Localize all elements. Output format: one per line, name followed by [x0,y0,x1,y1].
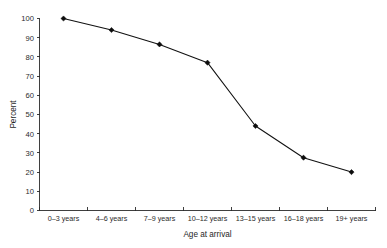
data-point-markers [61,16,354,175]
x-tick-label: 16–18 years [284,214,324,223]
y-tick-label: 60 [26,91,34,100]
y-tick-label: 0 [30,206,34,215]
data-point [157,42,162,47]
y-tick-label: 40 [26,130,34,139]
y-tick-label: 100 [21,14,34,23]
x-axis-title: Age at arrival [183,230,231,239]
chart-figure: 100 90 80 70 60 50 40 30 20 10 0 0–3 yea… [0,0,387,248]
y-tick-label: 50 [26,110,34,119]
data-point [109,27,114,32]
line-chart: 100 90 80 70 60 50 40 30 20 10 0 0–3 yea… [0,0,387,248]
data-point [349,170,354,175]
y-tick-label: 70 [26,72,34,81]
x-tick-label: 4–6 years [96,214,128,223]
data-line-percent [64,19,352,173]
x-axis-tick-labels: 0–3 years 4–6 years 7–9 years 10–12 year… [48,214,368,223]
chart-axes [40,19,376,211]
x-tick-label: 7–9 years [144,214,176,223]
x-tick-label: 10–12 years [188,214,228,223]
x-tick-label: 13–15 years [236,214,276,223]
y-tick-label: 90 [26,34,34,43]
y-axis-tick-labels: 100 90 80 70 60 50 40 30 20 10 0 [21,14,34,215]
y-axis-title: Percent [9,100,18,129]
data-point [61,16,66,21]
x-tick-marks [40,207,376,211]
y-tick-label: 30 [26,149,34,158]
y-tick-label: 20 [26,168,34,177]
y-tick-label: 10 [26,187,34,196]
x-tick-label: 0–3 years [48,214,80,223]
x-tick-label: 19+ years [336,214,368,223]
y-tick-label: 80 [26,53,34,62]
